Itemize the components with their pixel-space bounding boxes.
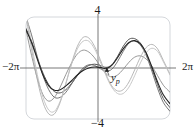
differential-equation-solution-plot: 4 −4 −2π 2π yp (0, 0, 195, 136)
particular-solution-subscript: p (116, 77, 120, 86)
particular-solution-label: yp (111, 72, 120, 86)
y-min-label: −4 (0, 117, 195, 129)
x-min-label: −2π (2, 61, 19, 72)
x-max-label: 2π (182, 61, 193, 72)
y-max-label: 4 (0, 4, 195, 16)
